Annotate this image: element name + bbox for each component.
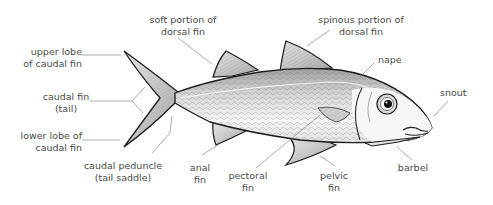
label-anal-fin: anal fin (180, 162, 220, 186)
eye (377, 94, 397, 114)
spinous-dorsal-fin (280, 41, 332, 71)
leader-anal-fin (202, 145, 218, 155)
leader-soft-dorsal (178, 38, 212, 64)
leader-snout (434, 101, 448, 116)
label-upper-lobe: upper lobe of caudal fin (14, 46, 82, 70)
leader-pelvic-fin (320, 156, 335, 166)
leader-barbel (397, 147, 412, 160)
leader-caudal-fin (90, 87, 145, 101)
label-barbel: barbel (390, 162, 436, 174)
label-pelvic-fin: pelvic fin (310, 170, 358, 194)
label-lower-lobe: lower lobe of caudal fin (14, 130, 82, 154)
leader-nape (360, 63, 374, 77)
label-caudal-fin: caudal fin (tail) (38, 91, 94, 115)
label-spinous-dorsal-fin: spinous portion of dorsal fin (307, 14, 415, 38)
label-soft-dorsal-fin: soft portion of dorsal fin (135, 14, 231, 38)
label-nape: nape (378, 54, 418, 66)
label-caudal-peduncle: caudal peduncle (tail saddle) (78, 160, 168, 184)
label-pectoral-fin: pectoral fin (220, 170, 276, 194)
label-snout: snout (440, 87, 484, 99)
leader-caudal-fin-2 (132, 101, 143, 113)
